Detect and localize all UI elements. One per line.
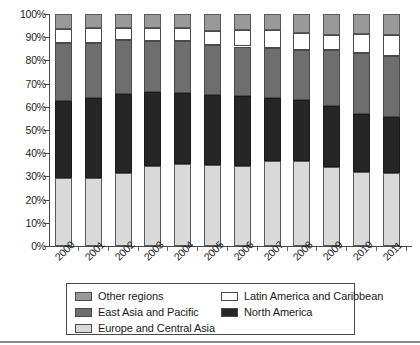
bar-segment[interactable] <box>353 172 370 246</box>
bar-segment[interactable] <box>323 106 340 167</box>
bar-segment[interactable] <box>85 178 102 246</box>
bar-column[interactable] <box>144 14 161 246</box>
bar-column[interactable] <box>55 14 72 246</box>
bar-segment[interactable] <box>234 47 251 97</box>
bars-layer <box>0 0 420 258</box>
bar-column[interactable] <box>264 14 281 246</box>
bar-segment[interactable] <box>204 165 221 246</box>
bar-segment[interactable] <box>264 48 281 98</box>
bar-segment[interactable] <box>264 98 281 162</box>
bar-segment[interactable] <box>144 14 161 28</box>
bar-segment[interactable] <box>293 161 310 246</box>
x-axis-tick-mark <box>257 247 258 251</box>
bar-segment[interactable] <box>383 173 400 246</box>
bar-segment[interactable] <box>55 178 72 246</box>
bar-segment[interactable] <box>383 14 400 35</box>
bar-segment[interactable] <box>264 161 281 246</box>
bar-column[interactable] <box>204 14 221 246</box>
bar-segment[interactable] <box>115 173 132 246</box>
bar-segment[interactable] <box>293 33 310 50</box>
bar-segment[interactable] <box>115 94 132 173</box>
bar-segment[interactable] <box>115 28 132 40</box>
legend-row: Other regionsLatin America and Caribbean <box>73 288 354 304</box>
y-axis-tick-mark <box>44 200 49 201</box>
bar-segment[interactable] <box>144 41 161 92</box>
bar-segment[interactable] <box>234 14 251 30</box>
bar-column[interactable] <box>353 14 370 246</box>
y-axis-tick-mark <box>44 246 49 247</box>
bar-segment[interactable] <box>323 167 340 246</box>
bar-segment[interactable] <box>353 34 370 54</box>
legend-item-label: Europe and Central Asia <box>98 322 215 334</box>
bar-segment[interactable] <box>55 101 72 178</box>
bar-segment[interactable] <box>353 53 370 113</box>
bar-column[interactable] <box>174 14 191 246</box>
bar-segment[interactable] <box>353 14 370 34</box>
bar-segment[interactable] <box>353 114 370 172</box>
bar-segment[interactable] <box>234 30 251 46</box>
legend-row: Europe and Central Asia <box>73 320 354 336</box>
bar-segment[interactable] <box>323 35 340 50</box>
bar-column[interactable] <box>85 14 102 246</box>
legend-item[interactable]: Europe and Central Asia <box>75 320 215 336</box>
x-axis-tick-mark <box>316 247 317 251</box>
bar-segment[interactable] <box>323 14 340 35</box>
bar-segment[interactable] <box>234 96 251 166</box>
bar-segment[interactable] <box>144 92 161 166</box>
bar-segment[interactable] <box>115 14 132 28</box>
bar-segment[interactable] <box>204 31 221 45</box>
bar-segment[interactable] <box>144 28 161 41</box>
bar-segment[interactable] <box>55 43 72 101</box>
x-axis-tick-mark <box>287 247 288 251</box>
y-axis-tick-mark <box>44 107 49 108</box>
bar-segment[interactable] <box>174 93 191 164</box>
bar-segment[interactable] <box>55 14 72 29</box>
bar-segment[interactable] <box>204 14 221 31</box>
bar-segment[interactable] <box>85 14 102 28</box>
bar-column[interactable] <box>115 14 132 246</box>
bar-segment[interactable] <box>323 50 340 106</box>
bar-column[interactable] <box>234 14 251 246</box>
x-axis-tick-mark <box>346 247 347 251</box>
legend-item[interactable]: Other regions <box>75 288 163 304</box>
bar-segment[interactable] <box>234 166 251 246</box>
chart-legend: Other regionsLatin America and Caribbean… <box>66 283 355 335</box>
y-axis-tick-mark <box>44 223 49 224</box>
y-axis-tick-mark <box>44 14 49 15</box>
bar-segment[interactable] <box>383 56 400 117</box>
legend-item[interactable]: East Asia and Pacific <box>75 304 199 320</box>
bar-segment[interactable] <box>115 40 132 95</box>
x-axis-tick-mark <box>227 247 228 251</box>
bar-segment[interactable] <box>174 28 191 41</box>
legend-item[interactable]: North America <box>221 304 312 320</box>
bar-segment[interactable] <box>144 166 161 246</box>
bar-segment[interactable] <box>204 45 221 95</box>
legend-swatch-europe-and-central-asia <box>75 324 92 333</box>
bar-segment[interactable] <box>174 41 191 93</box>
bar-column[interactable] <box>323 14 340 246</box>
bar-column[interactable] <box>383 14 400 246</box>
plot-area: 0%10%20%30%40%50%60%70%80%90%100% 200020… <box>0 0 420 258</box>
y-axis-tick-mark <box>44 130 49 131</box>
y-axis-tick-mark <box>44 37 49 38</box>
legend-item[interactable]: Latin America and Caribbean <box>221 288 383 304</box>
bar-segment[interactable] <box>383 117 400 173</box>
bar-segment[interactable] <box>85 43 102 98</box>
bar-column[interactable] <box>293 14 310 246</box>
bar-segment[interactable] <box>85 98 102 178</box>
bar-segment[interactable] <box>174 14 191 28</box>
bar-segment[interactable] <box>383 35 400 56</box>
bar-segment[interactable] <box>293 50 310 100</box>
bar-segment[interactable] <box>293 100 310 161</box>
bar-segment[interactable] <box>55 29 72 43</box>
bar-segment[interactable] <box>204 95 221 165</box>
bar-segment[interactable] <box>174 164 191 246</box>
bar-segment[interactable] <box>293 14 310 33</box>
stacked-bar-chart: 0%10%20%30%40%50%60%70%80%90%100% 200020… <box>0 0 420 345</box>
bar-segment[interactable] <box>85 28 102 43</box>
y-axis-tick-mark <box>44 60 49 61</box>
legend-item-label: East Asia and Pacific <box>98 306 199 318</box>
bar-segment[interactable] <box>264 30 281 47</box>
y-axis-tick-mark <box>44 176 49 177</box>
bar-segment[interactable] <box>264 14 281 30</box>
